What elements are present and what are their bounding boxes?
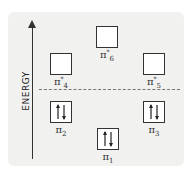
orbital-pi1 xyxy=(97,128,119,150)
label-pi3: π3 xyxy=(139,124,169,138)
label-pi6-star: π*6 xyxy=(92,48,122,63)
orbital-pi5-star xyxy=(143,53,165,75)
orbital-pi2 xyxy=(50,101,72,123)
label-pi5-star: π*5 xyxy=(139,75,169,90)
energy-axis xyxy=(32,25,33,159)
energy-axis-label: ENERGY xyxy=(21,69,31,113)
label-pi1: π1 xyxy=(93,151,123,165)
electron-pair-icon xyxy=(100,130,116,148)
label-pi4-star: π*4 xyxy=(46,75,76,90)
electron-pair-icon xyxy=(146,103,162,121)
orbital-pi3 xyxy=(143,101,165,123)
electron-pair-icon xyxy=(53,103,69,121)
orbital-pi4-star xyxy=(50,53,72,75)
orbital-pi6-star xyxy=(96,26,118,48)
label-pi2: π2 xyxy=(46,124,76,138)
